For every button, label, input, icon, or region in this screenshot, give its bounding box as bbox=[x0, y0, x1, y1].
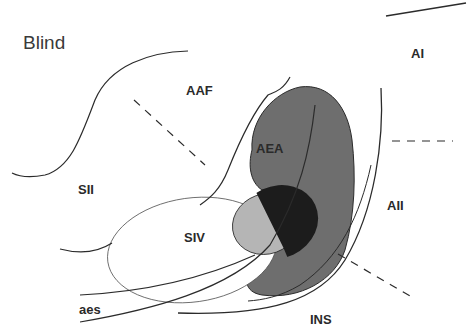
label-siv: SIV bbox=[184, 231, 205, 244]
label-aes: aes bbox=[79, 303, 101, 316]
sii-lower-curve bbox=[60, 243, 112, 252]
label-ins: INS bbox=[310, 313, 332, 326]
ai-top-line bbox=[386, 3, 466, 16]
label-aea: AEA bbox=[256, 142, 283, 155]
aii-ins-dashed-divider bbox=[338, 254, 410, 296]
diagram-title: Blind bbox=[23, 33, 65, 52]
label-aaf: AAF bbox=[186, 84, 213, 97]
label-sii: SII bbox=[78, 183, 94, 196]
cortex-diagram: Blind AAF AI AEA SII SIV AII aes INS bbox=[0, 0, 474, 331]
label-aii: AII bbox=[387, 199, 404, 212]
diagram-canvas bbox=[0, 0, 474, 331]
label-ai: AI bbox=[411, 47, 424, 60]
aaf-sii-dashed-divider bbox=[134, 100, 205, 165]
sii-upper-curve bbox=[12, 51, 188, 176]
